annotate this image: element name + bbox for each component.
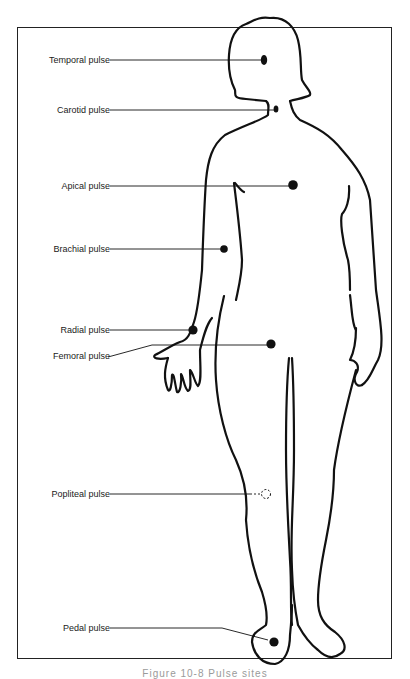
radial-pulse-point: [188, 325, 197, 334]
carotid-pulse-point: [274, 106, 279, 113]
label-radial-pulse: Radial pulse: [0, 325, 110, 335]
label-brachial-pulse: Brachial pulse: [0, 244, 110, 254]
temporal-pulse-point: [261, 55, 267, 65]
brachial-pulse-point: [220, 245, 228, 253]
apical-pulse-point: [288, 180, 298, 190]
label-popliteal-pulse: Popliteal pulse: [0, 489, 110, 499]
femoral-pulse-point: [266, 339, 275, 348]
label-temporal-pulse: Temporal pulse: [0, 55, 110, 65]
figure-caption: Figure 10-8 Pulse sites: [0, 668, 410, 679]
label-femoral-pulse: Femoral pulse: [0, 351, 110, 361]
pulse-points: [188, 55, 297, 647]
popliteal-pulse-point: [262, 490, 271, 499]
label-carotid-pulse: Carotid pulse: [0, 105, 110, 115]
label-pedal-pulse: Pedal pulse: [0, 623, 110, 633]
pedal-pulse-point: [269, 637, 278, 646]
label-apical-pulse: Apical pulse: [0, 181, 110, 191]
